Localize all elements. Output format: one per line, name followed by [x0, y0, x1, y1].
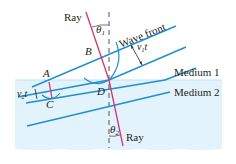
wave-front-label: Wave front: [117, 20, 167, 49]
v1t-label: v1t: [137, 41, 147, 53]
point-b-label: B: [85, 45, 92, 57]
point-a-label: A: [42, 67, 50, 79]
ray-top-label: Ray: [64, 11, 82, 23]
point-c-label: C: [46, 98, 54, 110]
medium2-label: Medium 2: [174, 86, 220, 98]
medium1-label: Medium 1: [174, 66, 220, 78]
ray-bottom-label: Ray: [126, 131, 144, 143]
refraction-diagram: Ray θ1 Wave front B v1t Medium 1 A Mediu…: [0, 0, 236, 164]
wavelet-arc-b: [110, 42, 119, 79]
point-d-label: D: [96, 85, 105, 97]
